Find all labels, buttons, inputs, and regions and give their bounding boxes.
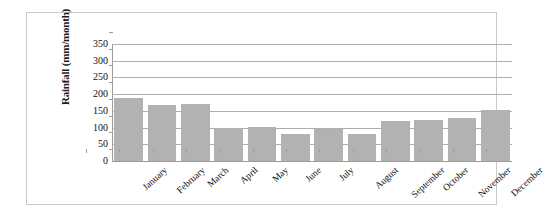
y-axis-tick-mark: [109, 149, 113, 150]
y-axis-tick-labels: 050100150200250300350: [75, 44, 108, 161]
x-axis-tick-mark: [353, 149, 354, 153]
x-axis-tick-mark: [253, 149, 254, 153]
x-axis-line: [112, 161, 512, 162]
x-axis-tick-mark: [486, 149, 487, 153]
y-axis-tick-mark: [109, 99, 113, 100]
y-axis-tick-mark: [109, 49, 113, 50]
bar-slot: [412, 44, 445, 161]
x-axis-category-label: July: [337, 165, 355, 183]
x-axis-tick-mark: [119, 149, 120, 153]
x-axis-category-label: January: [140, 165, 169, 192]
x-axis-tick-mark: [153, 149, 154, 153]
x-axis-tick-mark: [386, 149, 387, 153]
x-axis-category-label: August: [373, 165, 400, 191]
y-axis-tick-label: 0: [78, 156, 108, 166]
x-axis-tick-mark: [219, 149, 220, 153]
x-axis-category-label: April: [238, 165, 260, 186]
bar-series: [112, 44, 512, 161]
bar-slot: [179, 44, 212, 161]
bar-slot: [479, 44, 512, 161]
y-axis-tick-mark: [109, 32, 113, 33]
y-axis-tick-label: 350: [78, 39, 108, 49]
y-axis-tick-mark: [109, 82, 113, 83]
x-axis-category-label: March: [206, 165, 231, 189]
y-axis-tick-label: 250: [78, 72, 108, 82]
bar-slot: [145, 44, 178, 161]
bar-slot: [312, 44, 345, 161]
bar[interactable]: [248, 127, 277, 161]
x-axis-category-label: October: [441, 165, 470, 193]
x-axis-tick-mark: [186, 149, 187, 153]
y-axis-tick-mark: [109, 116, 113, 117]
x-axis-tick-mark: [286, 149, 287, 153]
y-axis-title: Rainfall (mm/month): [59, 0, 71, 122]
bar[interactable]: [348, 134, 377, 161]
bar[interactable]: [381, 121, 410, 161]
x-axis-category-label: May: [270, 165, 290, 184]
bar-slot: [279, 44, 312, 161]
y-axis-tick-mark: [109, 65, 113, 66]
x-axis-category-label: September: [410, 165, 447, 200]
bar[interactable]: [314, 129, 343, 161]
bar-slot: [212, 44, 245, 161]
bar-slot: [345, 44, 378, 161]
bar-slot: [379, 44, 412, 161]
y-axis-tick-mark: [109, 132, 113, 133]
x-axis-category-labels: JanuaryFebruaryMarchAprilMayJuneJulyAugu…: [112, 165, 512, 215]
bar[interactable]: [481, 110, 510, 161]
bar[interactable]: [214, 128, 243, 161]
bar-slot: [445, 44, 478, 161]
bar-slot: [245, 44, 278, 161]
bar-slot: [112, 44, 145, 161]
x-axis-category-label: June: [304, 165, 324, 184]
x-axis-tick-mark: [86, 149, 87, 153]
y-axis-tick-label: 50: [78, 139, 108, 149]
y-axis-tick-label: 300: [78, 56, 108, 66]
bar[interactable]: [281, 134, 310, 161]
y-axis-tick-label: 100: [78, 123, 108, 133]
x-axis-tick-mark: [453, 149, 454, 153]
y-axis-tick-label: 150: [78, 106, 108, 116]
chart-frame: Rainfall (mm/month) 05010015020025030035…: [26, 12, 497, 205]
plot-area: [112, 44, 512, 161]
x-axis-category-label: February: [175, 165, 207, 195]
bar[interactable]: [414, 120, 443, 161]
x-axis-category-label: November: [476, 165, 512, 199]
x-axis-category-label: December: [509, 165, 545, 199]
x-axis-tick-mark: [419, 149, 420, 153]
y-axis-tick-label: 200: [78, 89, 108, 99]
x-axis-tick-mark: [319, 149, 320, 153]
bar[interactable]: [448, 118, 477, 161]
